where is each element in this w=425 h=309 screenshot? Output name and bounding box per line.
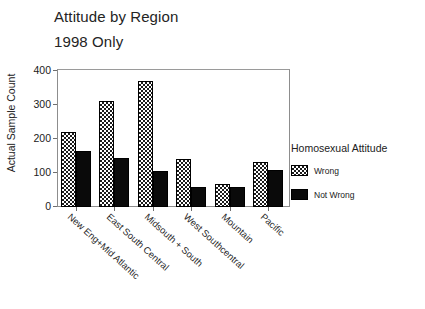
bar-not-wrong[interactable] xyxy=(76,151,91,207)
bar-group xyxy=(61,69,91,207)
bar-wrong[interactable] xyxy=(215,184,230,207)
page-title: Attitude by Region xyxy=(54,8,178,25)
x-tick-mark xyxy=(114,207,115,211)
bar-wrong[interactable] xyxy=(138,81,153,207)
legend-item-not-wrong[interactable]: Not Wrong xyxy=(291,189,423,200)
chart-subtitle: 1998 Only xyxy=(54,33,123,50)
y-tick-label: 0 xyxy=(45,201,51,212)
bars-layer xyxy=(57,69,290,207)
x-tick-mark xyxy=(153,207,154,211)
x-tick-label: Mountain xyxy=(220,211,256,245)
legend-swatch-not-wrong-icon xyxy=(291,189,308,200)
bar-group xyxy=(138,69,168,207)
bar-group xyxy=(215,69,245,207)
y-tick-label: 300 xyxy=(33,99,51,110)
y-axis: Actual Sample Count 0100200300400 xyxy=(0,69,57,207)
bar-group xyxy=(253,69,283,207)
plot-area xyxy=(57,69,290,207)
bar-wrong[interactable] xyxy=(176,159,191,207)
bar-wrong[interactable] xyxy=(61,132,76,207)
bar-not-wrong[interactable] xyxy=(191,187,206,207)
x-tick-label: Pacific xyxy=(258,211,286,238)
x-tick-label: New Eng+Mid Atlantic xyxy=(66,211,142,281)
x-tick-mark xyxy=(191,207,192,211)
legend-item-wrong[interactable]: Wrong xyxy=(291,165,423,176)
legend-label-not-wrong: Not Wrong xyxy=(314,190,354,200)
y-tick-label: 200 xyxy=(33,133,51,144)
bar-wrong[interactable] xyxy=(253,162,268,207)
legend: Homosexual Attitude Wrong Not Wrong xyxy=(291,142,423,213)
bar-not-wrong[interactable] xyxy=(268,170,283,207)
y-axis-title: Actual Sample Count xyxy=(5,48,17,198)
x-tick-mark xyxy=(76,207,77,211)
bar-group xyxy=(99,69,129,207)
legend-label-wrong: Wrong xyxy=(314,166,339,176)
legend-title: Homosexual Attitude xyxy=(291,142,423,154)
bar-group xyxy=(176,69,206,207)
bar-wrong[interactable] xyxy=(99,101,114,207)
bar-not-wrong[interactable] xyxy=(230,187,245,207)
bar-not-wrong[interactable] xyxy=(114,158,129,207)
y-tick-label: 400 xyxy=(33,65,51,76)
x-tick-mark xyxy=(230,207,231,211)
x-tick-mark xyxy=(268,207,269,211)
bar-not-wrong[interactable] xyxy=(153,171,168,207)
y-tick-label: 100 xyxy=(33,167,51,178)
legend-swatch-wrong-icon xyxy=(291,165,308,176)
